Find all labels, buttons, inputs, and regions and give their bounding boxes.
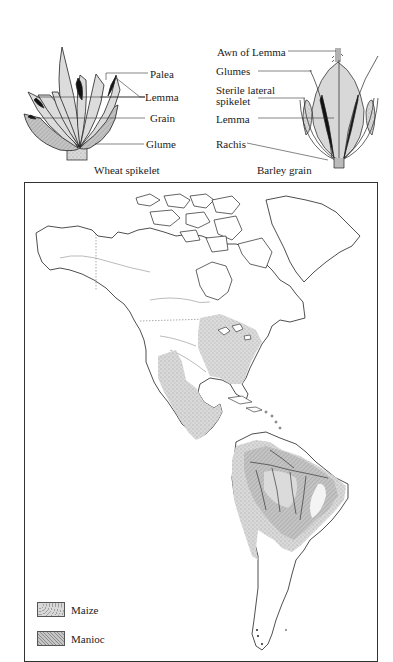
legend-item-manioc: Manioc bbox=[37, 631, 105, 646]
label-grain: Grain bbox=[150, 112, 175, 124]
barley-grain-drawing bbox=[300, 48, 378, 168]
legend-label-manioc: Manioc bbox=[71, 633, 105, 645]
barley-caption: Barley grain bbox=[257, 164, 312, 176]
label-lemma-barley: Lemma bbox=[216, 113, 250, 125]
label-glumes: Glumes bbox=[216, 65, 250, 77]
wheat-spikelet-drawing bbox=[24, 47, 120, 160]
label-glume: Glume bbox=[146, 138, 176, 150]
map-frame: Maize Manioc bbox=[24, 182, 378, 662]
label-palea: Palea bbox=[150, 68, 174, 80]
label-spikelet: spikelet bbox=[216, 95, 250, 107]
label-awn-of-lemma: Awn of Lemma bbox=[217, 46, 286, 58]
label-rachis: Rachis bbox=[216, 138, 246, 150]
wheat-caption: Wheat spikelet bbox=[94, 164, 160, 176]
legend-label-maize: Maize bbox=[71, 604, 98, 616]
manioc-swatch-icon bbox=[37, 631, 65, 646]
legend-item-maize: Maize bbox=[37, 602, 98, 617]
label-lemma: Lemma bbox=[145, 91, 179, 103]
maize-swatch-icon bbox=[37, 602, 65, 617]
